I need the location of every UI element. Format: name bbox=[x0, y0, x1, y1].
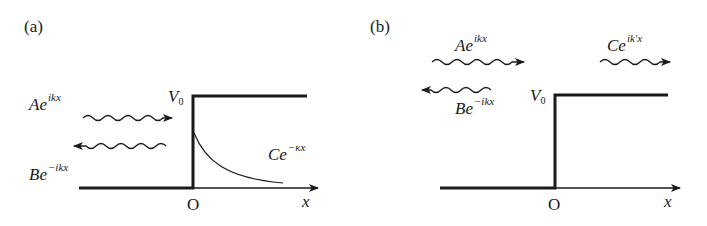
incident-wave-arrow bbox=[432, 60, 524, 65]
reflected-wave-label: Be−ikx bbox=[29, 166, 68, 183]
panel-label: (b) bbox=[370, 18, 390, 35]
panel-a-graphic bbox=[0, 0, 354, 226]
potential-step bbox=[79, 96, 307, 188]
reflected-wave-arrow bbox=[422, 88, 491, 93]
reflected-wave-label: Be−ikx bbox=[455, 100, 494, 117]
panel-a: (a) V0 Aeikx Be−ikx Ce−κx O x bbox=[0, 0, 354, 226]
panel-b-graphic bbox=[354, 0, 707, 226]
evanescent-wave-label: Ce−κx bbox=[268, 146, 305, 163]
x-axis-label: x bbox=[302, 193, 310, 210]
potential-label: V0 bbox=[530, 87, 545, 104]
reflected-wave-arrow bbox=[74, 144, 166, 149]
potential-label: V0 bbox=[168, 88, 183, 105]
origin-label: O bbox=[187, 196, 199, 213]
transmitted-wave-arrow bbox=[600, 60, 670, 65]
origin-label: O bbox=[548, 196, 560, 213]
panel-label: (a) bbox=[24, 18, 43, 35]
incident-wave-label: Aeikx bbox=[455, 37, 487, 54]
x-axis-label: x bbox=[664, 193, 672, 210]
panel-b: (b) Aeikx Ceik′x Be−ikx V0 O x bbox=[354, 0, 707, 226]
transmitted-wave-label: Ceik′x bbox=[607, 37, 642, 54]
incident-wave-arrow bbox=[83, 116, 172, 121]
incident-wave-label: Aeikx bbox=[29, 96, 61, 113]
